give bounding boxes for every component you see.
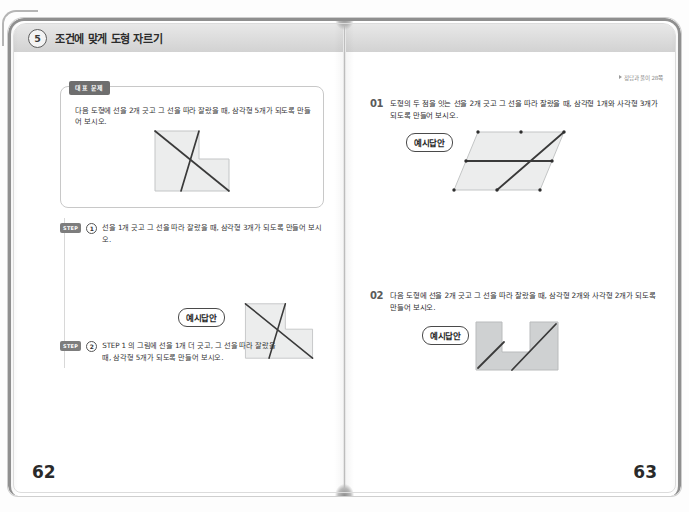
- right-page-edge-shading: [344, 18, 681, 496]
- l-shape-two-crossing-lines-icon: [149, 125, 235, 197]
- problem-01-number: 01: [370, 98, 383, 110]
- step-2-chip: STEP: [60, 341, 81, 351]
- scanned-page-background: 5 조건에 맞게 도형 자르기 대표 문제 다음 도형에 선을 2개 긋고 그 …: [0, 0, 689, 512]
- left-page: 5 조건에 맞게 도형 자르기 대표 문제 다음 도형에 선을 2개 긋고 그 …: [8, 18, 344, 496]
- step-1-block: STEP 1 선을 1개 긋고 그 선을 따라 잘랐을 때, 삼각형 3개가 되…: [60, 222, 328, 245]
- problem-01-answer-badge-wrap: 예시답안: [406, 131, 453, 152]
- right-page-number: 63: [633, 462, 657, 482]
- representative-problem-tag: 대표 문제: [69, 81, 110, 95]
- left-page-number: 62: [32, 462, 56, 482]
- page-title: 조건에 맞게 도형 자르기: [55, 30, 163, 46]
- page-spread: 5 조건에 맞게 도형 자르기 대표 문제 다음 도형에 선을 2개 긋고 그 …: [8, 18, 681, 496]
- problem-02-number: 02: [370, 290, 383, 302]
- step-2-text: STEP 1 의 그림에 선을 1개 더 긋고, 그 선을 따라 잘랐을 때, …: [102, 340, 282, 363]
- step-2-block: STEP 2 STEP 1 의 그림에 선을 1개 더 긋고, 그 선을 따라 …: [60, 340, 328, 363]
- step-1-text: 선을 1개 긋고 그 선을 따라 잘랐을 때, 삼각형 3개가 되도록 만들어 …: [102, 222, 328, 245]
- book-spread: 5 조건에 맞게 도형 자르기 대표 문제 다음 도형에 선을 2개 긋고 그 …: [8, 18, 681, 496]
- step-2-answer-badge: 예시답안: [178, 308, 225, 327]
- step-2-number: 2: [86, 341, 97, 352]
- representative-problem-figure: [149, 125, 235, 197]
- problem-02-answer-badge: 예시답안: [422, 326, 469, 345]
- problem-01-figure: [452, 124, 572, 198]
- right-page: 정답과 풀이 28쪽 01 도형의 두 점을 잇는 선을 2개 긋고 그 선을 …: [344, 18, 681, 496]
- representative-problem-card: 대표 문제 다음 도형에 선을 2개 긋고 그 선을 따라 잘랐을 때, 삼각형…: [60, 86, 324, 208]
- step-1-chip: STEP: [60, 223, 81, 233]
- problem-02-block: 02 다음 도형에 선을 2개 긋고 그 선을 따라 잘랐을 때, 삼각형 2개…: [370, 290, 662, 314]
- problem-01-block: 01 도형의 두 점을 잇는 선을 2개 긋고 그 선을 따라 잘랐을 때, 삼…: [370, 98, 662, 122]
- chapter-header-bar-continuation: [344, 24, 675, 52]
- problem-02-figure: [472, 318, 564, 374]
- problem-02-answer-badge-wrap: 예시답안: [422, 324, 469, 345]
- u-shape-two-parallel-lines-icon: [472, 318, 564, 374]
- step-2-answer-badge-wrap: 예시답안: [178, 306, 225, 327]
- step-1-number: 1: [86, 223, 97, 234]
- problem-02-text: 다음 도형에 선을 2개 긋고 그 선을 따라 잘랐을 때, 삼각형 2개와 사…: [390, 290, 662, 314]
- parallelogram-with-marked-points-icon: [452, 124, 572, 198]
- problem-01-text: 도형의 두 점을 잇는 선을 2개 긋고 그 선을 따라 잘랐을 때, 삼각형 …: [390, 98, 662, 122]
- problem-01-answer-badge: 예시답안: [406, 133, 453, 152]
- answer-reference-note: 정답과 풀이 28쪽: [619, 74, 663, 82]
- chapter-header-bar: 5 조건에 맞게 도형 자르기: [14, 24, 344, 52]
- scan-corner-mark: [2, 10, 38, 46]
